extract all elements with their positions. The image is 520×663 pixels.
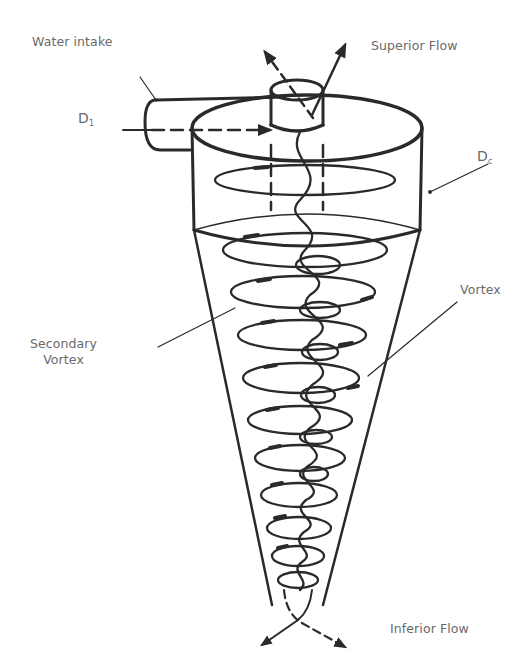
water-intake-label: Water intake bbox=[32, 34, 113, 49]
d1-label: D1 bbox=[78, 110, 94, 128]
inferior-flow-arrows bbox=[262, 590, 345, 647]
dc-leader-line bbox=[430, 164, 488, 192]
cone-body bbox=[194, 230, 420, 605]
superior-flow-label: Superior Flow bbox=[371, 38, 458, 53]
hydrocyclone-diagram bbox=[0, 0, 520, 663]
d1-main: D bbox=[78, 110, 89, 126]
secondary-vortex-leader-line bbox=[158, 308, 235, 347]
d1-sub: 1 bbox=[89, 119, 94, 128]
inferior-flow-label: Inferior Flow bbox=[390, 621, 469, 636]
inlet-pipe bbox=[140, 77, 285, 150]
vortex-leader-line bbox=[368, 302, 457, 376]
dc-sub: c bbox=[488, 157, 493, 166]
secondary-vortex-label: Secondary Vortex bbox=[30, 336, 97, 368]
dc-label: Dc bbox=[477, 148, 492, 166]
dc-main: D bbox=[477, 148, 488, 164]
water-intake-leader-line bbox=[140, 77, 156, 100]
secondary-vortex-label-line2: Vortex bbox=[30, 352, 97, 368]
primary-vortex-spiral bbox=[295, 132, 340, 590]
vortex-label: Vortex bbox=[460, 282, 501, 297]
secondary-vortex-label-line1: Secondary bbox=[30, 336, 97, 352]
